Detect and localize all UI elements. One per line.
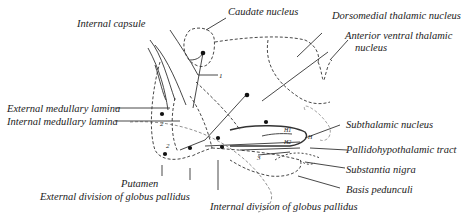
label-internal-medullary-lamina: Internal medullary lamina <box>7 116 118 128</box>
label-pallidohypothalamic-tract: Pallidohypothalamic tract <box>346 144 457 156</box>
label-putamen: Putamen <box>121 178 158 190</box>
label-external-division-globus-pallidus: External division of globus pallidus <box>40 191 190 203</box>
label-substantia-nigra: Substantia nigra <box>346 164 416 176</box>
nucleus-dot <box>201 51 206 56</box>
label-internal-capsule: Internal capsule <box>77 18 146 30</box>
nucleus-dot <box>160 112 164 116</box>
marker-1: 1 <box>219 70 223 82</box>
marker-2: 2 <box>160 118 164 130</box>
label-anterior-ventral-thalamic-nucleus-line1: Anterior ventral thalamic <box>345 30 452 42</box>
label-external-medullary-lamina: External medullary lamina <box>7 103 120 115</box>
nucleus-dot <box>188 146 192 150</box>
marker-h: H <box>308 131 312 143</box>
label-subthalamic-nucleus: Subthalamic nucleus <box>346 119 433 131</box>
nucleus-dot <box>264 120 268 124</box>
marker-h1: H1 <box>284 124 291 136</box>
label-dorsomedial-thalamic-nucleus: Dorsomedial thalamic nucleus <box>332 10 461 22</box>
marker-3: 3 <box>257 152 261 164</box>
label-internal-division-globus-pallidus: Internal division of globus pallidus <box>210 201 358 213</box>
label-caudate-nucleus: Caudate nucleus <box>228 6 298 18</box>
marker-h2: H2 <box>284 136 291 148</box>
basal-ganglia-diagram: 1 2 2 3 H1 H2 H Internal capsule Caudate… <box>0 0 469 220</box>
marker-2b: 2 <box>166 140 170 152</box>
nucleus-dot <box>220 145 224 149</box>
nucleus-dot <box>163 152 167 156</box>
nucleus-dot <box>216 136 220 140</box>
nucleus-dot <box>245 93 250 98</box>
label-basis-pedunculi: Basis pedunculi <box>346 184 413 196</box>
label-anterior-ventral-thalamic-nucleus-line2: nucleus <box>355 42 387 54</box>
